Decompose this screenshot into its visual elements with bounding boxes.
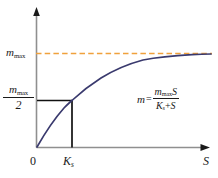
x-tick-label-ks: Ks <box>63 155 74 168</box>
equation-lhs: m <box>137 93 146 105</box>
equation-equals-sign: = <box>146 93 153 104</box>
ks-subscript: s <box>71 160 74 169</box>
half-numerator-symbol: m <box>9 83 17 95</box>
equation-numerator: mmaxS <box>153 86 179 98</box>
mmax-symbol: m <box>6 46 14 58</box>
mmax-subscript: max <box>14 52 25 59</box>
y-tick-label-mmax: mmax <box>6 47 25 59</box>
equation-denominator-term: S <box>171 100 176 111</box>
ks-symbol: K <box>63 154 71 168</box>
monod-kinetics-chart: mmax mmax 2 0 Ks S m = mmaxS Ks+S <box>0 0 218 178</box>
y-tick-label-mmax-half: mmax 2 <box>3 84 34 111</box>
monod-equation-annotation: m = mmaxS Ks+S <box>137 86 179 112</box>
equation-fraction: mmaxS Ks+S <box>153 86 179 112</box>
half-label-numerator: mmax <box>3 84 34 97</box>
equation-denominator: Ks+S <box>153 99 179 111</box>
equation-numerator-subscript: max <box>162 90 172 97</box>
x-axis-title: S <box>203 155 209 167</box>
x-axis <box>37 144 211 151</box>
half-label-denominator: 2 <box>3 98 34 111</box>
y-axis <box>33 7 40 148</box>
x-tick-label-origin: 0 <box>30 155 36 167</box>
equation-numerator-symbol: m <box>155 86 162 97</box>
equation-numerator-factor: S <box>172 86 177 97</box>
equation-denominator-symbol: K <box>156 100 163 111</box>
half-saturation-guide <box>37 100 73 148</box>
half-numerator-subscript: max <box>17 89 28 96</box>
